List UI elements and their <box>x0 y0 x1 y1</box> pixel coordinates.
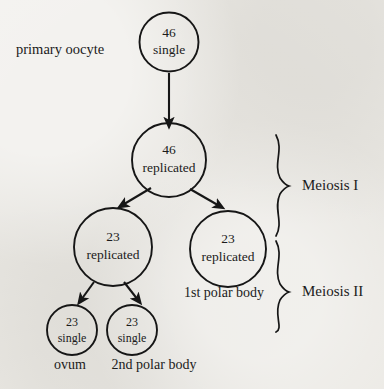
cell-secondary-oocyte[interactable]: 23 replicated <box>74 208 152 286</box>
brace-meiosis-one <box>276 135 289 236</box>
second-polar-body-label: 2nd polar body <box>112 357 197 372</box>
cell-state-primary-oocyte-replicated: replicated <box>142 160 195 175</box>
cell-primary-oocyte[interactable]: 46 single <box>140 13 199 72</box>
cell-first-polar-body[interactable]: 23 replicated <box>190 211 266 287</box>
first-polar-body-label: 1st polar body <box>184 285 264 300</box>
cell-state-primary-oocyte: single <box>153 42 185 57</box>
arrow-secondary-to-ovum <box>81 282 94 300</box>
cell-state-secondary-oocyte: replicated <box>86 247 139 262</box>
cell-state-second-polar-body: single <box>118 331 147 345</box>
ovum-label: ovum <box>54 357 86 372</box>
arrow-group <box>81 73 220 300</box>
cell-count-ovum: 23 <box>66 315 78 329</box>
cell-primary-oocyte-replicated[interactable]: 46 replicated <box>132 123 206 197</box>
meiosis-one-label: Meiosis I <box>302 177 358 193</box>
meiosis-diagram: 46 single 46 replicated 23 replicated 23… <box>0 0 384 389</box>
meiosis-two-label: Meiosis II <box>302 283 363 299</box>
cell-count-secondary-oocyte: 23 <box>106 229 120 244</box>
cell-count-first-polar-body: 23 <box>221 231 235 246</box>
cell-second-polar-body[interactable]: 23 single <box>107 305 157 355</box>
cell-state-first-polar-body: replicated <box>201 249 254 264</box>
cell-ovum[interactable]: 23 single <box>47 305 97 355</box>
brace-meiosis-two <box>276 241 289 332</box>
brace-group <box>276 135 289 332</box>
cell-group: 46 single 46 replicated 23 replicated 23… <box>47 13 266 356</box>
diagram-page: 46 single 46 replicated 23 replicated 23… <box>0 0 384 389</box>
cell-count-primary-oocyte: 46 <box>162 25 176 40</box>
cell-count-second-polar-body: 23 <box>126 315 138 329</box>
primary-oocyte-label: primary oocyte <box>16 41 104 57</box>
cell-count-primary-oocyte-replicated: 46 <box>162 142 176 157</box>
arrow-replicated-to-first-polar-body <box>190 189 220 206</box>
cell-state-ovum: single <box>58 331 87 345</box>
